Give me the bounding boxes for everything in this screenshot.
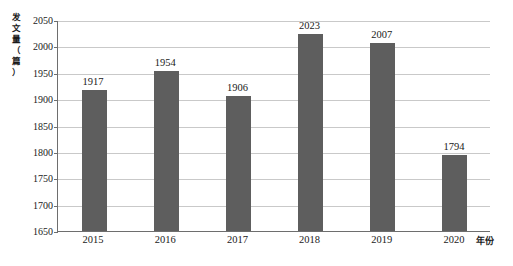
y-axis-tick-label: 1700	[5, 201, 53, 211]
x-axis-tick-label: 2019	[352, 234, 412, 246]
gridline	[58, 206, 490, 207]
x-axis-tick-label: 2016	[135, 234, 195, 246]
bar[interactable]	[298, 34, 323, 231]
y-axis-tick-label: 1850	[5, 122, 53, 132]
y-axis-tick-label: 1750	[5, 174, 53, 184]
bar-value-label: 1794	[424, 141, 484, 152]
bar[interactable]	[226, 96, 251, 231]
plot-area	[57, 21, 490, 232]
bar[interactable]	[82, 90, 107, 231]
y-axis-tick-mark	[54, 74, 58, 75]
y-axis-tick-mark	[54, 153, 58, 154]
gridline	[58, 74, 490, 75]
bar-chart: 发 文 量 （ 篇 ） 2050200019501900185018001750…	[0, 0, 513, 266]
bar-value-label: 2007	[352, 29, 412, 40]
y-axis-tick-mark	[54, 232, 58, 233]
bar-value-label: 1917	[63, 76, 123, 87]
y-axis-tick-mark	[54, 206, 58, 207]
gridline	[58, 47, 490, 48]
y-axis-tick-label: 1650	[5, 227, 53, 237]
bar[interactable]	[154, 71, 179, 231]
y-axis-tick-label: 1800	[5, 148, 53, 158]
gridline	[58, 100, 490, 101]
y-axis-tick-mark	[54, 179, 58, 180]
y-axis-tick-labels: 205020001950190018501800175017001650	[0, 0, 53, 266]
bar-value-label: 1954	[135, 57, 195, 68]
x-axis-tick-label: 2018	[280, 234, 340, 246]
x-axis-tick-label: 2017	[207, 234, 267, 246]
y-axis-tick-mark	[54, 47, 58, 48]
y-axis-tick-label: 2050	[5, 16, 53, 26]
bar-value-label: 2023	[280, 20, 340, 31]
y-axis-tick-label: 1950	[5, 69, 53, 79]
bar-value-label: 1906	[207, 82, 267, 93]
y-axis-tick-mark	[54, 127, 58, 128]
gridline	[58, 179, 490, 180]
x-axis-tick-label: 2015	[63, 234, 123, 246]
x-axis-tick-label: 2020	[424, 234, 484, 246]
bar[interactable]	[442, 155, 467, 231]
gridline	[58, 127, 490, 128]
gridline	[58, 21, 490, 22]
y-axis-tick-mark	[54, 21, 58, 22]
gridline	[58, 153, 490, 154]
bar[interactable]	[370, 43, 395, 231]
y-axis-tick-label: 2000	[5, 42, 53, 52]
y-axis-tick-mark	[54, 100, 58, 101]
y-axis-tick-label: 1900	[5, 95, 53, 105]
